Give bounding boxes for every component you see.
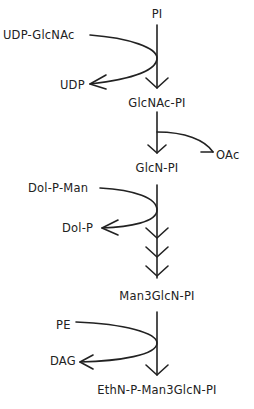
cropped-caption-fragment — [0, 403, 254, 409]
step1-arrow — [90, 25, 168, 89]
step3-arrow — [100, 185, 168, 278]
pathway-arrows — [0, 0, 254, 409]
metabolite-glcn-pi: GlcN-PI — [136, 162, 179, 175]
metabolite-pi: PI — [152, 8, 163, 21]
product-udp: UDP — [60, 79, 85, 92]
metabolite-man3glcn-pi: Man3GlcN-PI — [119, 290, 194, 303]
metabolite-glcnac-pi: GlcNAc-PI — [128, 97, 185, 110]
product-oac: OAc — [216, 149, 239, 162]
substrate-dol-p-man: Dol-P-Man — [28, 182, 88, 195]
step2-arrow — [148, 112, 213, 153]
metabolite-ethn-p-man3glcn-pi: EthN-P-Man3GlcN-PI — [97, 384, 216, 397]
product-dol-p: Dol-P — [62, 222, 93, 235]
step4-arrow — [76, 312, 168, 375]
substrate-pe: PE — [56, 319, 71, 332]
substrate-udp-glcnac: UDP-GlcNAc — [3, 29, 75, 42]
product-dag: DAG — [50, 355, 76, 368]
